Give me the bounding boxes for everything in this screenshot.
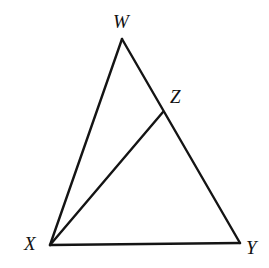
vertex-label-w: W	[113, 12, 129, 31]
segment-WX	[50, 39, 122, 245]
geometry-figure: W X Y Z	[0, 0, 269, 268]
vertex-label-y: Y	[246, 238, 257, 257]
figure-canvas	[0, 0, 269, 268]
segment-XY	[50, 243, 240, 245]
vertex-label-z: Z	[170, 87, 181, 106]
vertex-label-x: X	[24, 234, 36, 253]
segment-XZ	[50, 112, 163, 245]
